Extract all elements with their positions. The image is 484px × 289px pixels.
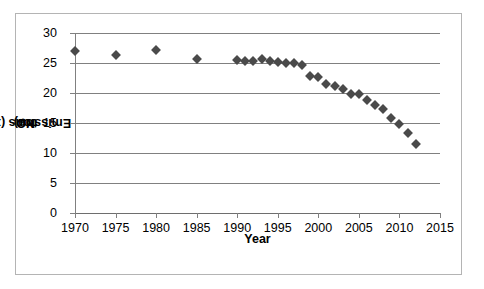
y-tick-label: 20 <box>43 86 57 100</box>
y-tick-label: 0 <box>50 206 57 220</box>
x-axis-title: Year <box>75 232 440 246</box>
data-point <box>394 119 404 129</box>
data-point <box>313 72 323 82</box>
data-point <box>321 79 331 89</box>
y-tick <box>70 93 75 94</box>
x-tick <box>197 213 198 218</box>
data-point <box>297 60 307 70</box>
y-tick <box>70 183 75 184</box>
y-tick-label: 25 <box>43 56 57 70</box>
data-point <box>411 139 421 149</box>
gridline <box>75 153 440 154</box>
x-tick <box>440 213 441 218</box>
x-tick <box>75 213 76 218</box>
gridline <box>75 123 440 124</box>
y-axis-title: NO2 Emissions (x106 ton) <box>18 33 34 213</box>
x-tick <box>399 213 400 218</box>
x-tick <box>116 213 117 218</box>
y-tick <box>70 123 75 124</box>
x-tick <box>237 213 238 218</box>
x-tick <box>318 213 319 218</box>
data-point <box>151 45 161 55</box>
y-tick-label: 30 <box>43 26 57 40</box>
y-tick <box>70 33 75 34</box>
y-tick-label: 15 <box>43 116 57 130</box>
gridline <box>75 93 440 94</box>
y-tick-label: 5 <box>50 176 57 190</box>
y-tick <box>70 63 75 64</box>
gridline <box>75 63 440 64</box>
data-point <box>403 128 413 138</box>
x-tick <box>278 213 279 218</box>
x-tick <box>156 213 157 218</box>
chart-figure: NO2 Emissions (x106 ton) 051015202530 19… <box>0 0 484 289</box>
y-tick-label: 10 <box>43 146 57 160</box>
gridline <box>75 33 440 34</box>
y-tick <box>70 153 75 154</box>
y-axis-title-text: NO2 Emissions (x106 ton) <box>17 118 36 127</box>
gridline <box>75 183 440 184</box>
x-tick <box>359 213 360 218</box>
x-axis-line <box>75 213 440 214</box>
plot-area: 051015202530 197019751980198519901995200… <box>75 33 440 213</box>
data-point <box>111 50 121 60</box>
data-point <box>354 89 364 99</box>
data-point <box>248 56 258 66</box>
